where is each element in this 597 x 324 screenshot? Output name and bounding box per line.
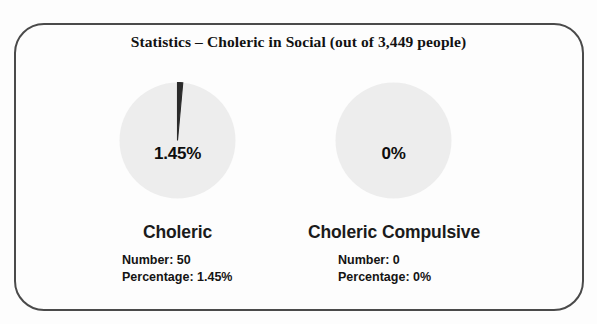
- detail-number-choleric-compulsive: Number: 0: [338, 252, 431, 269]
- pie-chart-choleric-compulsive: 0%: [335, 82, 452, 199]
- pie-svg-choleric-compulsive: [335, 82, 452, 199]
- pie-remainder-slice-choleric-compulsive: [336, 83, 452, 199]
- detail-percentage-choleric: Percentage: 1.45%: [122, 269, 232, 286]
- pie-chart-choleric-graphic: 1.45%: [119, 82, 236, 199]
- figure-frame-border: [14, 23, 584, 311]
- pie-svg-choleric: [119, 82, 236, 199]
- pie-center-label-choleric-compulsive: 0%: [335, 144, 452, 164]
- figure-title: Statistics – Choleric in Social (out of …: [0, 33, 597, 51]
- details-choleric-compulsive: Number: 0 Percentage: 0%: [338, 252, 431, 286]
- category-label-choleric: Choleric: [119, 222, 236, 243]
- details-choleric: Number: 50 Percentage: 1.45%: [122, 252, 232, 286]
- pie-center-label-choleric: 1.45%: [119, 144, 236, 164]
- pie-chart-choleric-compulsive-graphic: 0%: [335, 82, 452, 199]
- detail-number-choleric: Number: 50: [122, 252, 232, 269]
- pie-chart-choleric: 1.45%: [119, 82, 236, 199]
- category-label-choleric-compulsive: Choleric Compulsive: [303, 222, 485, 243]
- detail-percentage-choleric-compulsive: Percentage: 0%: [338, 269, 431, 286]
